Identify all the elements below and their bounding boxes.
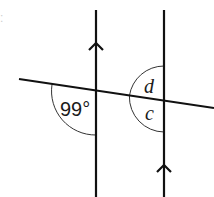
angle-label-c: c	[145, 102, 154, 124]
parallel-lines-diagram: : 99° d c	[0, 0, 214, 197]
transversal-line	[19, 79, 214, 108]
angle-label-d: d	[144, 75, 155, 97]
cropped-text-fragment: :	[0, 11, 3, 25]
angle-label-99: 99°	[60, 98, 90, 120]
